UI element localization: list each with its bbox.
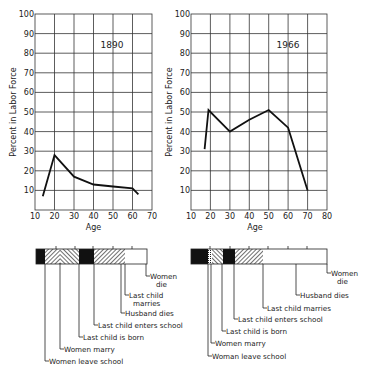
- event-last-child-marries-1966: Last child marries: [267, 304, 331, 313]
- event-women-marry-1966: Women marry: [215, 339, 267, 348]
- svg-text:60: 60: [283, 212, 293, 221]
- grid-1890: [35, 14, 152, 210]
- event-last-child-born-1890: Last child is born: [83, 333, 144, 342]
- svg-text:20: 20: [205, 212, 215, 221]
- segment-late-life-1966: [263, 249, 327, 264]
- y-ticks-1890: 100 90 80 70 60 50 40 30 20 10: [19, 10, 34, 195]
- event-women-marry-1890: Women marry: [64, 345, 116, 354]
- event-last-child-born-1966: Last child is born: [226, 327, 287, 336]
- chart-1966: 100 90 80 70 60 50 40 30 20 10 10 20 30 …: [165, 10, 332, 232]
- svg-text:60: 60: [24, 88, 34, 97]
- segment-single-1890: [45, 249, 60, 264]
- timeline-ticks-1966: [210, 246, 307, 249]
- svg-text:40: 40: [244, 212, 254, 221]
- event-husband-dies-1966: Husband dies: [300, 291, 349, 300]
- svg-text:100: 100: [19, 10, 34, 19]
- svg-text:10: 10: [186, 212, 196, 221]
- svg-text:70: 70: [303, 212, 313, 221]
- svg-text:80: 80: [180, 49, 190, 58]
- segment-single-1966: [208, 249, 212, 264]
- timeline-1966: Woman leave school Women marry Last chil…: [191, 246, 358, 361]
- svg-text:40: 40: [180, 128, 190, 137]
- event-women-die-1966-line2: die: [337, 277, 349, 286]
- segment-childhood-1890: [36, 249, 45, 264]
- svg-text:90: 90: [180, 30, 190, 39]
- svg-text:50: 50: [24, 108, 34, 117]
- x-axis-label-1890: Age: [86, 223, 102, 232]
- svg-text:50: 50: [180, 108, 190, 117]
- event-husband-dies-1890: Husband dies: [125, 309, 174, 318]
- event-last-child-enters-school-1890: Last child enters school: [98, 321, 183, 330]
- segment-school-children-1966: [235, 249, 263, 264]
- svg-text:30: 30: [180, 147, 190, 156]
- segment-school-children-1890: [94, 249, 125, 264]
- segment-children-1966: [223, 249, 235, 264]
- svg-text:50: 50: [264, 212, 274, 221]
- svg-text:20: 20: [49, 212, 59, 221]
- event-last-child-marries-1890-line2: marries: [133, 299, 161, 308]
- svg-text:20: 20: [180, 167, 190, 176]
- segment-married-1966: [212, 249, 223, 264]
- svg-text:80: 80: [322, 212, 332, 221]
- svg-text:20: 20: [24, 167, 34, 176]
- timeline-ticks-1890: [56, 246, 132, 249]
- svg-text:70: 70: [180, 69, 190, 78]
- svg-text:10: 10: [24, 186, 34, 195]
- labor-force-figure: 100 90 80 70 60 50 40 30 20 10 10 20 30 …: [0, 0, 365, 374]
- event-woman-leave-school-1966: Woman leave school: [212, 352, 286, 361]
- svg-text:40: 40: [24, 128, 34, 137]
- svg-text:30: 30: [24, 147, 34, 156]
- svg-text:50: 50: [108, 212, 118, 221]
- svg-text:30: 30: [69, 212, 79, 221]
- svg-text:10: 10: [30, 212, 40, 221]
- x-ticks-1890: 10 20 30 40 50 60 70: [30, 212, 157, 221]
- segment-married-1890: [60, 249, 79, 264]
- svg-text:40: 40: [88, 212, 98, 221]
- chart-1890: 100 90 80 70 60 50 40 30 20 10 10 20 30 …: [9, 10, 157, 232]
- event-women-leave-school-1890: Women leave school: [49, 357, 123, 366]
- event-last-child-enters-school-1966: Last child enters school: [238, 315, 323, 324]
- segment-late-life-1890: [125, 249, 147, 264]
- svg-text:70: 70: [147, 212, 157, 221]
- svg-text:10: 10: [180, 186, 190, 195]
- x-ticks-1966: 10 20 30 40 50 60 70 80: [186, 212, 332, 221]
- svg-text:100: 100: [175, 10, 190, 19]
- svg-text:60: 60: [180, 88, 190, 97]
- timeline-1890: Women leave school Women marry Last chil…: [36, 246, 183, 366]
- svg-text:60: 60: [127, 212, 137, 221]
- year-label-1890: 1890: [101, 40, 124, 50]
- series-line-1966: [205, 110, 308, 190]
- segment-childhood-1966: [191, 249, 208, 264]
- svg-text:90: 90: [24, 30, 34, 39]
- svg-text:70: 70: [24, 69, 34, 78]
- y-ticks-1966: 100 90 80 70 60 50 40 30 20 10: [175, 10, 190, 195]
- svg-text:30: 30: [225, 212, 235, 221]
- segment-children-1890: [79, 249, 94, 264]
- svg-text:80: 80: [24, 49, 34, 58]
- y-axis-label-1966: Percent in Labor Force: [165, 67, 174, 156]
- year-label-1966: 1966: [277, 40, 300, 50]
- y-axis-label-1890: Percent in Labor Force: [9, 67, 18, 156]
- event-women-die-1890-line2: die: [156, 280, 168, 289]
- x-axis-label-1966: Age: [247, 223, 263, 232]
